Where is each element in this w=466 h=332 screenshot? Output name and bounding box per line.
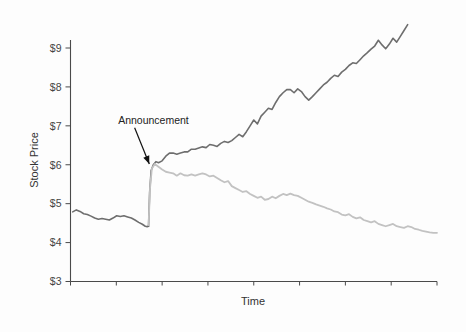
y-axis-ticks (66, 48, 71, 282)
chart-figure: $3$4$5$6$7$8$9 Announcement Stock Price … (0, 0, 466, 332)
y-axis-tick-label: $3 (50, 275, 62, 287)
y-axis-title: Stock Price (28, 132, 40, 188)
y-axis-tick-label: $9 (50, 42, 62, 54)
y-axis-tick-labels: $3$4$5$6$7$8$9 (50, 42, 62, 287)
announcement-annotation-arrow (135, 128, 150, 164)
y-axis-tick-label: $4 (50, 236, 62, 248)
announcement-annotation-label: Announcement (118, 114, 189, 126)
y-axis-tick-label: $5 (50, 197, 62, 209)
chart-series-group (73, 25, 437, 233)
chart-line-post-announcement-lower (149, 164, 437, 233)
chart-line-pre-announcement (73, 210, 149, 227)
y-axis-tick-label: $7 (50, 120, 62, 132)
y-axis-tick-label: $8 (50, 81, 62, 93)
x-axis-title: Time (241, 295, 265, 307)
stock-price-line-chart: $3$4$5$6$7$8$9 Announcement Stock Price … (0, 0, 466, 332)
x-axis-ticks (71, 282, 438, 286)
annotation-arrow-head (143, 155, 149, 164)
y-axis-tick-label: $6 (50, 159, 62, 171)
